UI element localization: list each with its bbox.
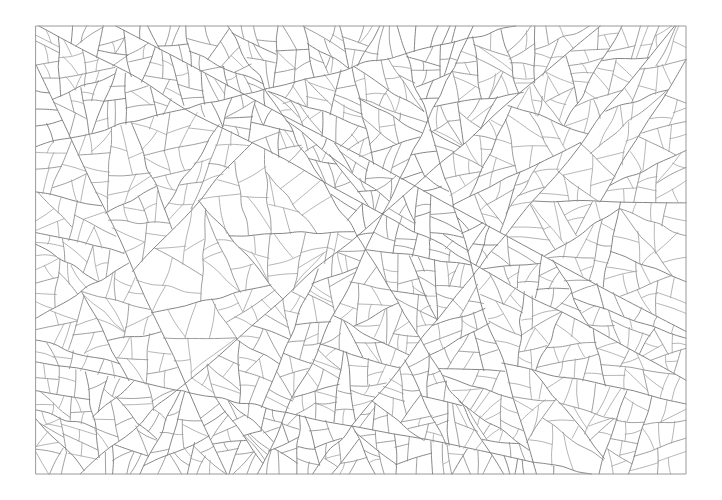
crack-line [110, 86, 126, 87]
pattern-canvas [0, 0, 722, 500]
craquelure-svg [0, 0, 722, 500]
